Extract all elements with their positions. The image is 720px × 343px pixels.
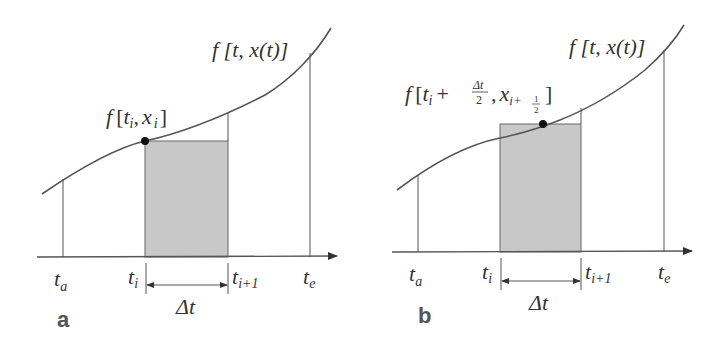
svg-text:Δt: Δt bbox=[472, 78, 484, 92]
tick-label-t-a: ta bbox=[54, 266, 67, 294]
svg-text:f[ti+: f[ti+ bbox=[405, 81, 449, 108]
time-axis bbox=[392, 251, 692, 252]
svg-text:]: ] bbox=[545, 81, 552, 106]
time-axis bbox=[37, 256, 337, 257]
tick-label-t-a: ta bbox=[409, 261, 422, 289]
point-label: f[ti+ Δt 2 ,xi+ 1 2 ] bbox=[405, 78, 552, 115]
delta-t-label: Δt bbox=[528, 290, 549, 315]
evaluation-point bbox=[539, 120, 547, 128]
tick-label-t-i: ti bbox=[482, 259, 492, 286]
svg-text:1: 1 bbox=[534, 94, 539, 104]
delta-t-label: Δt bbox=[175, 294, 196, 319]
point-label: f[ti,xi] bbox=[106, 104, 167, 131]
panel-b: f [t, x(t)] f[ti+ Δt 2 ,xi+ 1 2 ] ta ti … bbox=[392, 25, 692, 328]
area-rectangle bbox=[500, 124, 581, 252]
tick-label-t-i: ti bbox=[128, 264, 138, 291]
svg-text:2: 2 bbox=[534, 105, 539, 115]
curve-label: f [t, x(t)] bbox=[212, 37, 288, 62]
svg-text:2: 2 bbox=[476, 93, 482, 107]
svg-text:,xi+: ,xi+ bbox=[491, 81, 522, 108]
panel-label-b: b bbox=[418, 303, 431, 328]
panel-label-a: a bbox=[57, 307, 70, 332]
tick-label-t-e: te bbox=[658, 259, 670, 286]
evaluation-point bbox=[141, 137, 149, 145]
area-rectangle bbox=[145, 141, 228, 257]
tick-label-t-i1: ti+1 bbox=[585, 259, 611, 286]
panel-a: f [t, x(t)] f[ti,xi] ta ti ti+1 te Δt a bbox=[37, 28, 337, 332]
curve-label: f [t, x(t)] bbox=[569, 34, 645, 59]
tick-label-t-i1: ti+1 bbox=[232, 264, 258, 291]
tick-label-t-e: te bbox=[303, 264, 315, 291]
figure-canvas: f [t, x(t)] f[ti,xi] ta ti ti+1 te Δt a … bbox=[0, 0, 720, 343]
